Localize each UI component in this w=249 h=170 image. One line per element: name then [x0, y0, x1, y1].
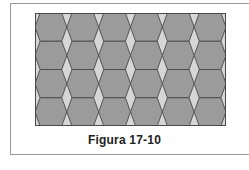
- hexagon-rhombus-tiling: [35, 13, 226, 126]
- hexagon-tile: [99, 98, 131, 126]
- hexagon-tile: [35, 13, 67, 41]
- hexagon-tile: [99, 41, 131, 69]
- hexagon-tile: [131, 13, 163, 41]
- figure-caption: Figura 17-10: [0, 133, 249, 147]
- hexagon-tile: [162, 70, 194, 98]
- hexagon-tile: [162, 41, 194, 69]
- hexagon-tile: [67, 70, 99, 98]
- hexagon-tile: [194, 13, 226, 41]
- hexagon-tile: [194, 98, 226, 126]
- hexagon-tile: [162, 13, 194, 41]
- hexagon-tile: [67, 13, 99, 41]
- hexagon-tile: [67, 41, 99, 69]
- hexagon-tile: [99, 13, 131, 41]
- hexagon-tile: [131, 98, 163, 126]
- hexagon-tile: [35, 70, 67, 98]
- hexagon-tile: [67, 98, 99, 126]
- hexagon-tile: [35, 98, 67, 126]
- hexagon-tile: [194, 70, 226, 98]
- hexagon-tile: [35, 41, 67, 69]
- hexagon-tile: [99, 70, 131, 98]
- hexagon-tile: [194, 41, 226, 69]
- hexagon-tile: [131, 41, 163, 69]
- hexagon-tile: [162, 98, 194, 126]
- hexagon-tile: [131, 70, 163, 98]
